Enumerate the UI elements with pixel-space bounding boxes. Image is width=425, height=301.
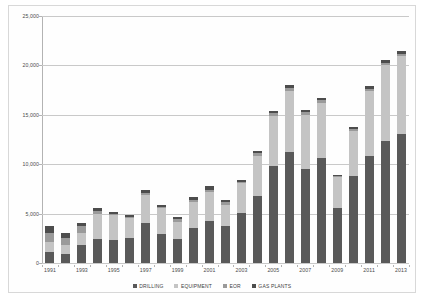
bar-2008[interactable] [317, 98, 326, 263]
bar-segment-eor [237, 182, 246, 183]
x-axis-tick [249, 265, 250, 267]
bar-1991[interactable] [45, 226, 54, 263]
bar-segment-eor [317, 100, 326, 103]
legend-label: EOR [230, 283, 241, 289]
bar-segment-gas-plants [333, 175, 342, 176]
bar-segment-eor [77, 226, 86, 233]
bar-segment-equipment [93, 214, 102, 240]
bar-2005[interactable] [269, 111, 278, 263]
bar-segment-eor [381, 63, 390, 65]
bar-segment-equipment [365, 91, 374, 156]
bar-2009[interactable] [333, 175, 342, 263]
bar-segment-gas-plants [397, 51, 406, 54]
bar-1993[interactable] [77, 223, 86, 264]
bar-1994[interactable] [93, 208, 102, 263]
x-axis-tick [377, 265, 378, 267]
x-axis-tick [58, 265, 59, 267]
chart-legend: DRILLINGEQUIPMENTEORGAS PLANTS [9, 283, 415, 289]
bar-segment-eor [301, 112, 310, 115]
y-axis-tick-label: 20,000 [23, 62, 39, 68]
bar-segment-drilling [141, 223, 150, 264]
bar-segment-eor [93, 211, 102, 214]
bar-2007[interactable] [301, 110, 310, 263]
bar-2002[interactable] [221, 200, 230, 263]
legend-swatch-icon [223, 284, 227, 288]
bar-1996[interactable] [125, 215, 134, 263]
x-axis-tick [170, 265, 171, 267]
bar-segment-eor [141, 193, 150, 195]
bar-segment-eor [45, 233, 54, 242]
bar-2010[interactable] [349, 127, 358, 263]
bar-segment-eor [333, 176, 342, 177]
bar-segment-gas-plants [157, 205, 166, 207]
bar-segment-drilling [93, 239, 102, 263]
bar-1998[interactable] [157, 205, 166, 263]
legend-label: GAS PLANTS [258, 283, 291, 289]
bar-1999[interactable] [173, 217, 182, 263]
bar-1992[interactable] [61, 233, 70, 263]
bar-segment-equipment [61, 245, 70, 254]
x-axis-tick [361, 265, 362, 267]
bar-segment-drilling [301, 169, 310, 263]
bar-segment-drilling [365, 156, 374, 263]
bar-segment-eor [173, 219, 182, 221]
bar-segment-equipment [317, 103, 326, 158]
legend-label: DRILLING [139, 283, 163, 289]
gridline [42, 16, 409, 17]
x-axis-tick [154, 265, 155, 267]
bar-segment-eor [61, 238, 70, 245]
bar-segment-gas-plants [237, 180, 246, 182]
x-axis-tick-label: 1999 [172, 267, 184, 273]
bar-segment-equipment [141, 195, 150, 223]
legend-swatch-icon [252, 284, 256, 288]
bar-segment-equipment [301, 115, 310, 169]
plot-area [42, 16, 409, 263]
legend-item-gas-plants[interactable]: GAS PLANTS [252, 283, 291, 289]
bar-segment-gas-plants [125, 215, 134, 217]
chart-container: 05,00010,00015,00020,00025,000 199119931… [8, 5, 416, 293]
gridline [42, 263, 409, 264]
bar-segment-eor [221, 202, 230, 204]
bar-segment-eor [397, 54, 406, 56]
bar-segment-drilling [61, 254, 70, 263]
x-axis: 1991199319951997199920012003200520072009… [42, 265, 409, 277]
bar-2001[interactable] [205, 186, 214, 263]
bar-2013[interactable] [397, 51, 406, 263]
bar-segment-drilling [77, 245, 86, 263]
bar-segment-gas-plants [109, 212, 118, 214]
bar-segment-equipment [157, 208, 166, 235]
legend-item-eor[interactable]: EOR [223, 283, 241, 289]
bar-2011[interactable] [365, 86, 374, 263]
bar-segment-gas-plants [93, 208, 102, 211]
bar-1997[interactable] [141, 190, 150, 263]
bar-segment-eor [189, 200, 198, 202]
y-axis: 05,00010,00015,00020,00025,000 [9, 6, 39, 296]
bar-segment-eor [205, 190, 214, 192]
x-axis-tick [106, 265, 107, 267]
bar-2006[interactable] [285, 85, 294, 263]
x-axis-tick [329, 265, 330, 267]
bar-segment-drilling [221, 226, 230, 263]
bar-2012[interactable] [381, 60, 390, 263]
bar-segment-equipment [269, 116, 278, 166]
bar-segment-drilling [381, 141, 390, 263]
bar-segment-equipment [349, 131, 358, 176]
bar-segment-gas-plants [205, 186, 214, 189]
bar-segment-eor [269, 113, 278, 115]
y-axis-tick-label: 10,000 [23, 161, 39, 167]
bar-2003[interactable] [237, 180, 246, 263]
bar-segment-eor [285, 88, 294, 91]
x-axis-tick [202, 265, 203, 267]
legend-item-equipment[interactable]: EQUIPMENT [174, 283, 212, 289]
gridline [42, 65, 409, 66]
bar-segment-drilling [205, 221, 214, 263]
x-axis-tick [313, 265, 314, 267]
bar-1995[interactable] [109, 212, 118, 263]
legend-item-drilling[interactable]: DRILLING [133, 283, 164, 289]
x-axis-tick-label: 2013 [395, 267, 407, 273]
x-axis-tick [42, 265, 43, 267]
bar-segment-drilling [349, 176, 358, 263]
bar-2004[interactable] [253, 151, 262, 263]
bar-segment-drilling [45, 252, 54, 263]
bar-2000[interactable] [189, 197, 198, 263]
